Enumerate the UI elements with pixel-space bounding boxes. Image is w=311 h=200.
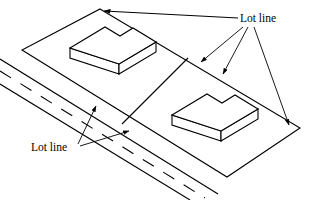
label-lot-line-top-right: Lot line xyxy=(240,12,276,24)
site-plan-diagram: Lot line Lot line xyxy=(0,0,311,200)
label-lot-line-bottom-left: Lot line xyxy=(31,141,67,153)
figure-container: Lot line Lot line xyxy=(0,0,311,200)
